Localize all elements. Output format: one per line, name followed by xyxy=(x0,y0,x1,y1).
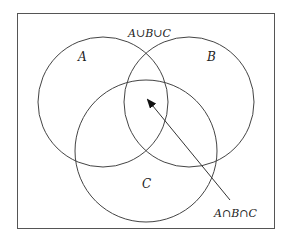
set-c-label: C xyxy=(142,177,151,191)
intersection-arrow xyxy=(148,100,230,200)
intersection-label: A∩B∩C xyxy=(213,207,257,220)
set-a-label: A xyxy=(77,50,87,64)
set-b-circle xyxy=(124,37,254,167)
venn-diagram: A∪B∪C A B C A∩B∩C xyxy=(0,0,289,238)
set-b-label: B xyxy=(206,50,216,64)
universe-label: A∪B∪C xyxy=(127,27,171,40)
set-a-circle xyxy=(38,37,168,167)
universe-box xyxy=(18,14,275,229)
